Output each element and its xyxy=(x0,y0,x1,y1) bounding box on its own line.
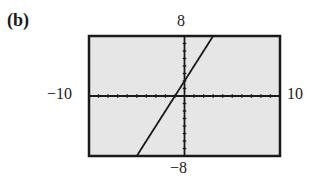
graphing-calculator-screen xyxy=(0,0,310,181)
